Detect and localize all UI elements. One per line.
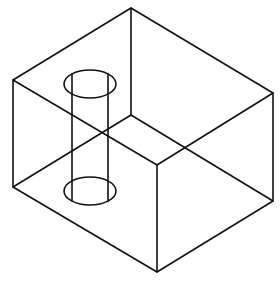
top-face <box>13 8 273 165</box>
bottom-face <box>13 115 273 272</box>
box-cylinder-diagram <box>0 0 280 288</box>
box-wireframe <box>13 8 273 272</box>
cylinder-hole <box>64 70 116 205</box>
